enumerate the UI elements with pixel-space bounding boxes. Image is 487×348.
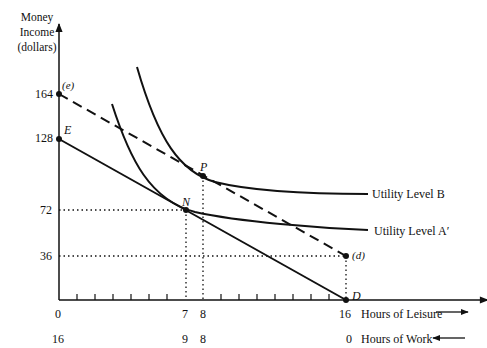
y-tick-128: 128 [35, 132, 53, 144]
work-tick-8: 8 [200, 333, 206, 345]
point-label-D: D [352, 290, 361, 302]
y-title-line: Income [14, 25, 60, 40]
point-label-E: E [64, 124, 71, 136]
point-label-N: N [182, 196, 190, 208]
x-tick-0: 0 [55, 308, 61, 320]
x-tick-8: 8 [200, 308, 206, 320]
point-label-e: (e) [62, 80, 74, 91]
x-tick-16: 16 [339, 308, 351, 320]
y-tick-164: 164 [35, 88, 53, 100]
work-tick-0: 0 [346, 333, 352, 345]
y-title-line: Money [14, 10, 60, 25]
point-label-d: (d) [352, 250, 365, 261]
utility-level-b-label: Utility Level B [372, 188, 445, 200]
x-tick-7: 7 [182, 308, 188, 320]
guide-lines [59, 176, 346, 300]
chart-canvas [0, 0, 487, 348]
utility-curve-b [137, 67, 368, 194]
work-tick-9: 9 [182, 333, 188, 345]
leisure-label: Hours of Leisure [361, 308, 442, 320]
y-tick-72: 72 [40, 204, 52, 216]
work-label: Hours of Work [361, 333, 432, 345]
utility-curve-a [112, 104, 368, 230]
y-axis-title: Money Income (dollars) [14, 10, 60, 55]
point-label-P: P [200, 161, 207, 173]
work-tick-16: 16 [52, 333, 64, 345]
y-tick-36: 36 [40, 250, 52, 262]
y-title-line: (dollars) [14, 40, 60, 55]
utility-level-a-label: Utility Level A′ [374, 225, 449, 237]
x-ticks [77, 294, 329, 300]
